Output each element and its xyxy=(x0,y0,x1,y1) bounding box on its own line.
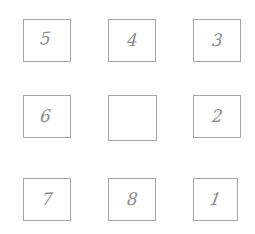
tile-label: 1 xyxy=(209,191,223,208)
tile-label: 8 xyxy=(126,191,138,209)
puzzle-board: 54362781 xyxy=(0,0,255,234)
tile-1[interactable]: 1 xyxy=(193,178,238,221)
tile-label: 6 xyxy=(39,108,51,126)
tile-label: 3 xyxy=(211,32,223,50)
empty-cell xyxy=(108,95,157,141)
tile-7[interactable]: 7 xyxy=(23,178,71,221)
tile-6[interactable]: 6 xyxy=(23,95,71,138)
tile-5[interactable]: 5 xyxy=(23,19,71,62)
tile-3[interactable]: 3 xyxy=(193,19,241,62)
tile-4[interactable]: 4 xyxy=(108,19,156,62)
tile-8[interactable]: 8 xyxy=(108,178,156,221)
tile-label: 4 xyxy=(126,32,138,50)
tile-2[interactable]: 2 xyxy=(193,95,241,138)
tile-label: 7 xyxy=(41,191,53,209)
tile-label: 2 xyxy=(211,108,223,126)
tile-label: 5 xyxy=(39,30,51,48)
